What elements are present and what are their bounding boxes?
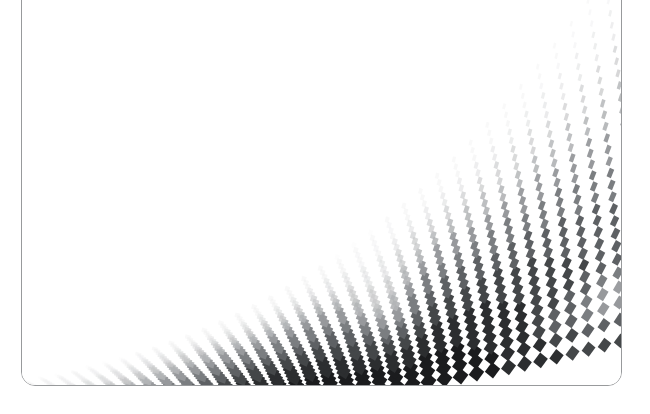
artwork-background — [22, 0, 621, 385]
screenshot-canvas: Grayscale diamond halftone wave — [0, 0, 650, 414]
diamond-mesh-artwork — [22, 0, 621, 385]
artboard-frame: Grayscale diamond halftone wave — [21, 0, 622, 386]
